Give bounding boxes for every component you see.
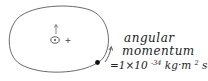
spin-arrow-icon [54, 25, 58, 35]
equation-exponent: -34 [151, 59, 161, 67]
plus-charge-icon [66, 38, 71, 43]
equation-prefix: =1×10 [110, 59, 148, 71]
label-momentum: momentum [122, 44, 195, 58]
orbit-diagram: angular momentum =1×10 -34 kg·m 2 s -1 [0, 0, 208, 81]
equation-unit-m-exp: 2 [194, 59, 199, 67]
label-angular: angular [124, 31, 175, 45]
electron-dot [95, 60, 100, 65]
equation-unit-s: s [202, 59, 208, 71]
nucleus-icon [51, 37, 59, 43]
equation-unit-kg: kg·m [165, 59, 191, 71]
